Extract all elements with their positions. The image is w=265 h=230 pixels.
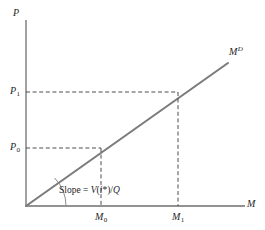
y-tick-p1-sub: 1 (16, 90, 20, 98)
slope-annotation: Slope = V(i*)/Q (59, 186, 120, 196)
x-tick-m0-sub: 0 (104, 216, 108, 224)
x-tick-m1-sub: 1 (181, 216, 185, 224)
money-demand-chart: P M MD P1 P0 M0 M1 Slope = V(i*)/Q (0, 0, 265, 230)
y-tick-p0-sub: 0 (16, 146, 20, 154)
y-tick-label-p1: P1 (10, 86, 20, 96)
slope-annotation-prefix: Slope = (59, 185, 91, 195)
x-tick-label-m1: M1 (172, 212, 184, 222)
x-tick-label-m0: M0 (95, 212, 107, 222)
curve-label-md: MD (229, 47, 242, 57)
chart-canvas (0, 0, 265, 230)
money-demand-curve (26, 63, 228, 206)
slope-annotation-q: Q (113, 185, 120, 195)
x-tick-m1-base: M (172, 211, 180, 222)
y-axis-label: P (13, 8, 19, 18)
y-tick-label-p0: P0 (10, 142, 20, 152)
x-tick-m0-base: M (95, 211, 103, 222)
curve-label-exponent: D (238, 45, 243, 53)
curve-label-base: M (229, 46, 237, 57)
x-axis-label: M (247, 199, 255, 209)
